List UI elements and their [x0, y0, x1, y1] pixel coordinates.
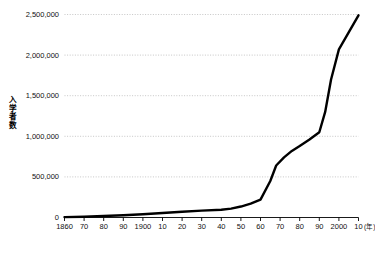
- line-chart: 0500,0001,000,0001,500,0002,000,0002,500…: [0, 0, 375, 258]
- gridlines: [65, 15, 359, 177]
- y-tick-label: 0: [55, 213, 59, 222]
- y-tick-label: 2,000,000: [26, 51, 59, 60]
- x-tick-label: 90: [119, 222, 127, 231]
- x-tick-label: 80: [296, 222, 304, 231]
- y-tick-label: 1,500,000: [26, 91, 59, 100]
- x-tick-label: 90: [315, 222, 323, 231]
- x-tick-label: 10: [158, 222, 166, 231]
- x-tick-label: 1860: [56, 222, 73, 231]
- x-axis-line: [65, 218, 359, 222]
- y-tick-label: 1,000,000: [26, 132, 59, 141]
- series-line: [65, 15, 359, 217]
- x-tick-label: 80: [100, 222, 108, 231]
- x-tick-label: 40: [217, 222, 225, 231]
- chart-container: 入学者数 0500,0001,000,0001,500,0002,000,000…: [0, 0, 375, 258]
- x-tick-label: 1900: [135, 222, 152, 231]
- x-axis-tick-labels: 18607080901900102030405060708090200010(年…: [56, 222, 375, 231]
- x-tick-label: 70: [276, 222, 284, 231]
- x-tick-label: 30: [198, 222, 206, 231]
- x-tick-label: 2000: [331, 222, 348, 231]
- y-tick-label: 500,000: [32, 172, 59, 181]
- x-tick-label: 70: [80, 222, 88, 231]
- x-tick-label: 50: [237, 222, 245, 231]
- y-tick-label: 2,500,000: [26, 10, 59, 19]
- x-tick-label: 20: [178, 222, 186, 231]
- y-axis-tick-labels: 0500,0001,000,0001,500,0002,000,0002,500…: [26, 10, 59, 222]
- x-tick-label: 10: [354, 222, 362, 231]
- data-series-line: [65, 15, 359, 217]
- x-tick-label: 60: [256, 222, 264, 231]
- x-axis-unit-label: (年): [364, 222, 375, 231]
